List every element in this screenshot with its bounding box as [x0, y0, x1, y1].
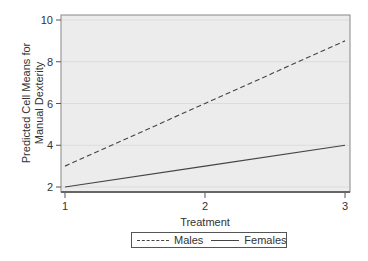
y-axis-title-line1: Predicted Cell Means for: [20, 42, 32, 163]
y-tick-label: 8: [47, 56, 53, 68]
legend-label-females: Females: [244, 234, 286, 246]
y-tick-label: 6: [47, 98, 53, 110]
y-axis-title-line2: Manual Dexterity: [33, 61, 45, 144]
y-tick-label: 2: [47, 181, 53, 193]
x-tick-label: 3: [342, 200, 348, 212]
y-tick-label: 4: [47, 139, 53, 151]
legend-label-males: Males: [174, 234, 203, 246]
x-axis: 123: [62, 193, 348, 212]
line-chart: 246810 123 Predicted Cell Means for Manu…: [0, 0, 368, 261]
legend-item-males: Males: [137, 234, 203, 246]
legend: Males Females: [131, 232, 287, 248]
x-axis-title: Treatment: [180, 216, 230, 228]
x-tick-label: 2: [202, 200, 208, 212]
legend-item-females: Females: [211, 234, 286, 246]
y-tick-label: 10: [41, 14, 53, 26]
dashed-line-icon: [137, 240, 169, 241]
x-tick-label: 1: [62, 200, 68, 212]
solid-line-icon: [211, 240, 239, 241]
